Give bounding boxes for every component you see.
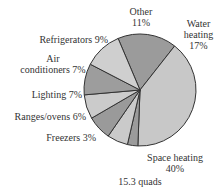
label-water-line1: Water xyxy=(176,18,221,29)
label-air-conditioners: Air conditioners 7% xyxy=(18,53,88,75)
label-water-line2: heating xyxy=(176,29,221,40)
label-space-heating: Space heating 40% xyxy=(142,152,208,174)
label-air-line1: Air xyxy=(18,53,88,64)
label-space-value: 40% xyxy=(142,163,208,174)
total-quads-text: 15.3 quads xyxy=(110,176,170,187)
label-refrigerators-text: Refrigerators 9% xyxy=(30,34,108,45)
label-freezers: Freezers 3% xyxy=(30,132,96,143)
label-ranges-ovens: Ranges/ovens 6% xyxy=(6,111,86,122)
label-freezers-text: Freezers 3% xyxy=(30,132,96,143)
label-lighting-text: Lighting 7% xyxy=(20,89,82,100)
label-air-line2: conditioners 7% xyxy=(18,64,88,75)
label-refrigerators: Refrigerators 9% xyxy=(30,34,108,45)
label-lighting: Lighting 7% xyxy=(20,89,82,100)
label-water-heating: Water heating 17% xyxy=(176,18,221,51)
label-other-value: 11% xyxy=(126,17,156,28)
label-ranges-text: Ranges/ovens 6% xyxy=(6,111,86,122)
label-other-name: Other xyxy=(126,6,156,17)
label-space-line1: Space heating xyxy=(142,152,208,163)
label-water-value: 17% xyxy=(176,40,221,51)
total-label: 15.3 quads xyxy=(110,176,170,187)
label-other: Other 11% xyxy=(126,6,156,28)
